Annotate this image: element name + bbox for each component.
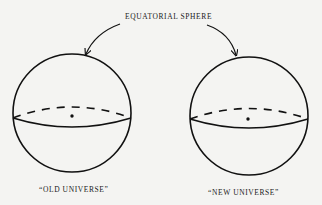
old-universe-label: “OLD UNIVERSE” <box>39 185 108 194</box>
equator-front-solid <box>13 118 131 127</box>
new-universe-sphere <box>190 57 308 175</box>
new-universe-label: “NEW UNIVERSE” <box>208 188 279 197</box>
arrow-to-old-universe <box>86 24 120 54</box>
sphere-outline <box>190 57 308 175</box>
center-dot <box>70 114 73 117</box>
old-universe-sphere <box>13 54 131 172</box>
arrow-to-new-universe <box>207 25 236 55</box>
center-dot <box>246 117 249 120</box>
equatorial-sphere-label: EQUATORIAL SPHERE <box>125 12 212 21</box>
diagram-canvas <box>0 0 322 205</box>
equator-back-dashed <box>190 109 308 120</box>
